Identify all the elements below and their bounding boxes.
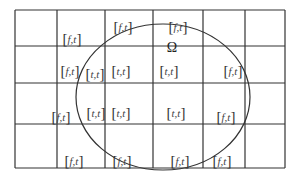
cell-label: [f,t] — [171, 154, 190, 169]
cell-label: [t,t] — [160, 64, 179, 79]
cell-label: [t,t] — [167, 106, 186, 121]
cell-label: [t,t] — [87, 106, 106, 121]
cell-label: [f,t] — [114, 20, 133, 35]
cell-label: [f,t] — [217, 110, 236, 125]
cell-label: [f,t] — [113, 154, 132, 169]
cell-label: [f,t] — [52, 110, 71, 125]
cell-label: [f,t] — [224, 64, 243, 79]
cell-label: [f,t] — [169, 20, 188, 35]
omega-symbol: Ω — [167, 40, 177, 56]
cell-label: [f,t] — [63, 32, 82, 47]
cell-label: [t,t] — [86, 67, 105, 82]
grid-lines — [15, 10, 285, 168]
cell-label: [t,t] — [112, 64, 131, 79]
cell-label: [f,t] — [61, 64, 80, 79]
cell-label: [t,t] — [112, 106, 131, 121]
cell-label: [f,t] — [213, 154, 232, 169]
grid-diagram — [0, 0, 302, 177]
cell-label: [f,t] — [65, 154, 84, 169]
